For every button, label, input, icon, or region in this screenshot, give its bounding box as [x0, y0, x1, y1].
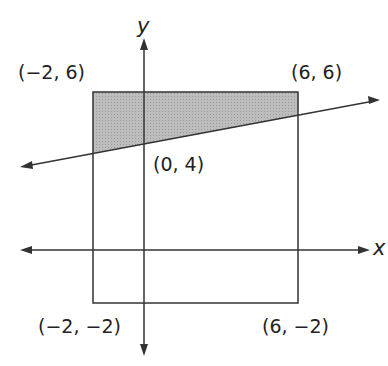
coordinate-diagram: [0, 0, 388, 366]
point-label-y-intercept: (0, 4): [153, 155, 204, 174]
x-axis-right-arrow-icon: [358, 246, 370, 254]
x-axis-left-arrow-icon: [20, 246, 32, 254]
y-axis-down-arrow-icon: [140, 344, 148, 356]
shaded-region: [93, 92, 298, 153]
y-axis-up-arrow-icon: [140, 38, 148, 50]
line-left-arrow-icon: [20, 161, 33, 169]
point-label-top-right: (6, 6): [291, 63, 342, 82]
point-label-top-left: (−2, 6): [18, 63, 85, 82]
line-right-arrow-icon: [368, 96, 380, 104]
x-axis-label: x: [373, 238, 385, 259]
point-label-bottom-left: (−2, −2): [38, 317, 121, 336]
y-axis-label: y: [137, 16, 149, 37]
point-label-bottom-right: (6, −2): [262, 317, 329, 336]
